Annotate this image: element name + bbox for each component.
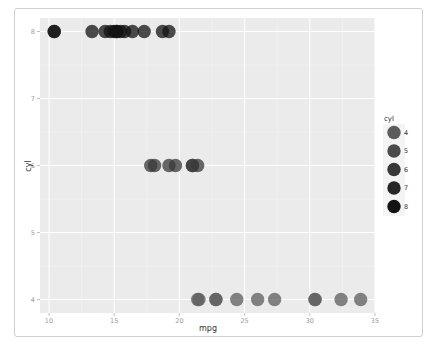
- x-tick-label: 20: [175, 317, 183, 325]
- x-axis-title: mpg: [199, 324, 217, 333]
- data-point: [148, 159, 161, 172]
- data-point: [354, 293, 367, 306]
- x-tick-label: 30: [306, 317, 314, 325]
- y-tick-label: 8: [31, 28, 35, 36]
- x-tick-label: 10: [45, 317, 53, 325]
- data-point: [251, 293, 264, 306]
- data-point: [334, 293, 347, 306]
- data-point: [162, 25, 175, 38]
- data-point: [268, 293, 281, 306]
- data-point: [85, 25, 98, 38]
- x-tick-label: 15: [110, 317, 118, 325]
- legend: cyl 45678: [383, 115, 408, 216]
- legend-label: 8: [404, 203, 408, 211]
- data-point: [209, 293, 222, 306]
- data-point: [137, 25, 150, 38]
- legend-label: 4: [404, 129, 408, 137]
- legend-key: [387, 144, 400, 157]
- y-tick-label: 7: [31, 95, 35, 103]
- legend-key: [387, 163, 400, 176]
- y-tick-label: 4: [31, 296, 35, 304]
- data-point: [230, 293, 243, 306]
- legend-key: [387, 200, 400, 213]
- legend-key: [387, 181, 400, 194]
- data-point: [126, 25, 139, 38]
- legend-label: 7: [404, 184, 408, 192]
- scatter-chart: 101520253035 45678 mpg cyl cyl 45678: [0, 0, 434, 348]
- data-point: [169, 159, 182, 172]
- legend-key: [387, 126, 400, 139]
- legend-label: 6: [404, 166, 408, 174]
- data-point: [308, 293, 321, 306]
- y-tick-label: 5: [31, 229, 35, 237]
- legend-label: 5: [404, 147, 408, 155]
- legend-title: cyl: [384, 115, 394, 123]
- x-tick-label: 25: [240, 317, 248, 325]
- data-point: [48, 25, 61, 38]
- data-point: [191, 159, 204, 172]
- y-axis-title: cyl: [24, 160, 33, 171]
- x-tick-label: 35: [371, 317, 379, 325]
- data-point: [192, 293, 205, 306]
- plot-panel: [40, 18, 375, 313]
